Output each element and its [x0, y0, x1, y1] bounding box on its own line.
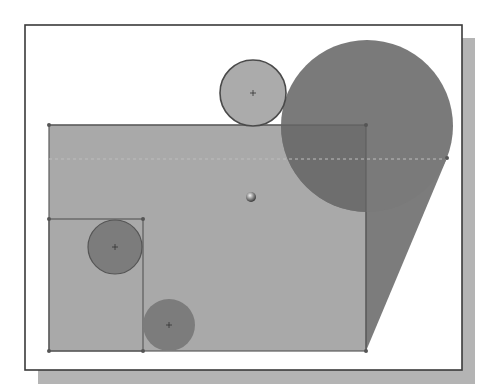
vertex-point[interactable]	[364, 123, 368, 127]
vertex-point[interactable]	[141, 349, 145, 353]
vertex-point[interactable]	[47, 123, 51, 127]
vertex-point[interactable]	[364, 349, 368, 353]
vertex-point[interactable]	[47, 217, 51, 221]
vertex-point[interactable]	[141, 217, 145, 221]
vertex-point[interactable]	[47, 349, 51, 353]
origin-marker-icon	[246, 192, 256, 202]
vertex-point[interactable]	[445, 156, 449, 160]
sketch-canvas	[0, 0, 494, 392]
